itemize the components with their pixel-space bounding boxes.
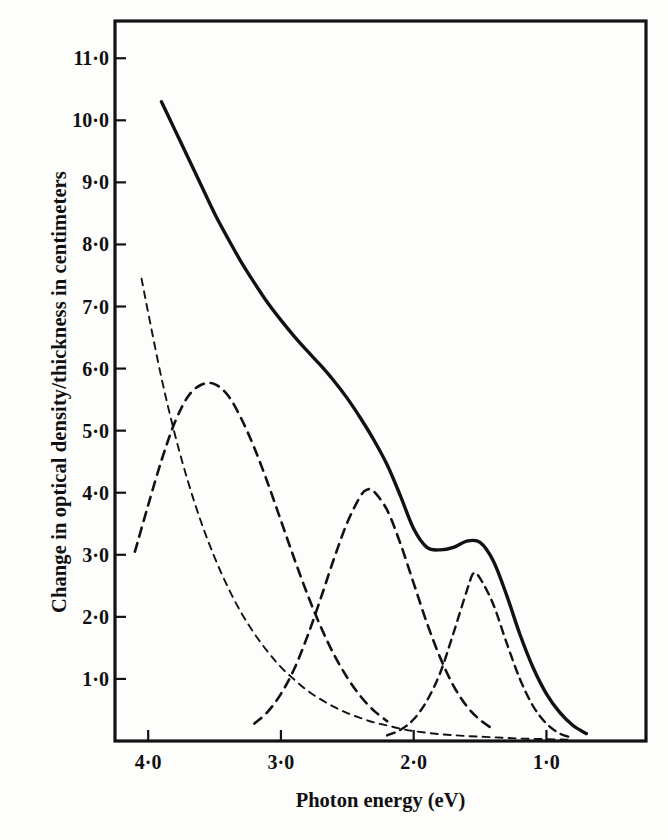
x-axis-title: Photon energy (eV) (115, 789, 646, 812)
x-axis-tick-label: 2·0 (400, 752, 427, 772)
x-axis-tick-label: 1·0 (533, 752, 560, 772)
curves-group (135, 102, 586, 740)
plot-frame (115, 21, 646, 741)
figure-root: Change in optical density/thickness in c… (0, 0, 668, 840)
plot-canvas (0, 0, 668, 840)
curve-component-3-gaussian-2p35eV (254, 489, 493, 729)
curve-component-1-exponential-tail (142, 279, 573, 740)
curve-total-absorption-curve (161, 102, 586, 734)
x-axis-tick-label: 3·0 (268, 752, 295, 772)
axis-ticks (115, 58, 546, 741)
x-axis-tick-label: 4·0 (135, 752, 162, 772)
curve-component-2-gaussian-3p5eV (135, 383, 387, 721)
x-axis-tick-labels: 4·03·02·01·0 (0, 752, 668, 782)
curve-component-4-gaussian-1p55eV (387, 573, 573, 738)
